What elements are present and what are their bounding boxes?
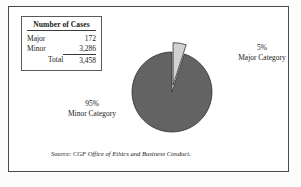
number-of-cases-table: Number of Cases Major 172 Minor 3,286 To… <box>21 16 102 71</box>
table-cell-major-label: Major <box>27 33 63 44</box>
figure-frame: Number of Cases Major 172 Minor 3,286 To… <box>8 6 289 172</box>
callout-major-percent: 5% <box>228 43 296 53</box>
table-cell-major-value: 172 <box>63 33 96 44</box>
cases-table-body: Major 172 Minor 3,286 Total 3,458 <box>27 33 96 66</box>
table-cell-minor-value: 3,286 <box>63 44 96 55</box>
callout-minor-percent: 95% <box>56 99 128 109</box>
table-cell-total-label: Total <box>27 55 63 66</box>
table-row-total: Total 3,458 <box>27 55 96 66</box>
table-title: Number of Cases <box>27 20 96 31</box>
figure-root: Number of Cases Major 172 Minor 3,286 To… <box>0 0 301 187</box>
callout-minor-name: Minor Category <box>56 109 128 119</box>
pie-chart-svg <box>121 34 231 154</box>
callout-minor-category: 95% Minor Category <box>56 99 128 119</box>
callout-major-category: 5% Major Category <box>228 43 296 63</box>
pie-slice-minor-category <box>132 52 212 132</box>
table-row-major: Major 172 <box>27 33 96 44</box>
pie-chart <box>121 34 231 154</box>
table-cell-minor-label: Minor <box>27 44 63 55</box>
callout-major-name: Major Category <box>228 53 296 63</box>
table-row-minor: Minor 3,286 <box>27 44 96 55</box>
source-note: Source: CGF Office of Ethics and Busines… <box>51 150 191 157</box>
table-cell-total-value: 3,458 <box>63 55 96 66</box>
